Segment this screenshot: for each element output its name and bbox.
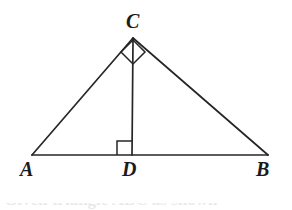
vertex-label-b: B: [256, 159, 269, 179]
right-angle-marker-d-icon: [117, 141, 132, 155]
vertex-label-d: D: [122, 159, 136, 179]
vertex-label-c: C: [126, 11, 139, 31]
vertex-dot-c: [132, 38, 135, 41]
segment-cb: [133, 38, 268, 155]
segment-ac: [32, 38, 133, 155]
geometry-figure: C A D B Given triangle ABC as shown: [0, 0, 292, 210]
clipped-caption-text: Given triangle ABC as shown: [4, 203, 217, 210]
vertex-label-a: A: [20, 159, 33, 179]
triangle-diagram-canvas: [0, 0, 292, 210]
clipped-caption: Given triangle ABC as shown: [0, 203, 292, 210]
segment-cd-altitude: [132, 40, 133, 155]
